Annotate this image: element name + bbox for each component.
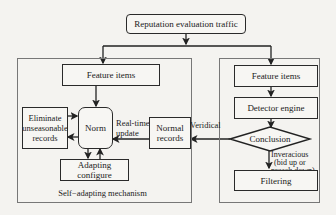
norm-box: Norm <box>78 107 113 149</box>
filtering-box: Filtering <box>234 170 318 191</box>
right-feature-items-label: Feature items <box>252 71 301 81</box>
eliminate-label: Eliminate unseasonable records <box>22 113 67 143</box>
realtime-update-label: Real-time update <box>116 118 150 138</box>
veridical-label: Veridical <box>190 121 221 130</box>
adapting-configure-label: Adapting configure <box>61 160 128 180</box>
eliminate-box: Eliminate unseasonable records <box>22 107 68 149</box>
detector-engine-box: Detector engine <box>234 97 318 119</box>
adapting-configure-box: Adapting configure <box>60 159 129 181</box>
left-feature-items-label: Feature items <box>87 70 136 80</box>
normal-records-label: Normal records <box>150 123 190 143</box>
reputation-traffic-box: Reputation evaluation traffic <box>126 14 246 34</box>
conclusion-label: Conclusion <box>230 135 310 144</box>
normal-records-box: Normal records <box>149 117 191 149</box>
norm-label: Norm <box>85 123 106 133</box>
right-feature-items-box: Feature items <box>234 65 318 87</box>
left-feature-items-box: Feature items <box>62 64 160 86</box>
filtering-label: Filtering <box>261 176 292 186</box>
detector-engine-label: Detector engine <box>247 103 304 113</box>
reputation-traffic-label: Reputation evaluation traffic <box>134 19 237 29</box>
self-adapting-caption: Self−adapting mechanism <box>55 189 150 198</box>
